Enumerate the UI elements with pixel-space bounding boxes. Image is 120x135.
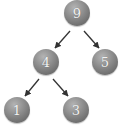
tree-node-left-right: 3 <box>63 97 89 123</box>
node-label: 1 <box>13 104 21 117</box>
tree-node-left: 4 <box>33 49 59 75</box>
tree-diagram: 9 4 5 1 3 <box>0 0 120 135</box>
tree-node-left-left: 1 <box>4 97 30 123</box>
tree-node-root: 9 <box>64 0 90 26</box>
node-label: 4 <box>42 56 50 69</box>
node-label: 9 <box>73 7 81 20</box>
edge-4-to-3 <box>53 79 68 96</box>
node-label: 3 <box>72 104 80 117</box>
edge-9-to-4 <box>55 31 70 48</box>
tree-node-right: 5 <box>92 49 118 75</box>
edge-4-to-1 <box>25 79 39 96</box>
node-label: 5 <box>101 56 109 69</box>
edge-9-to-5 <box>84 31 99 48</box>
